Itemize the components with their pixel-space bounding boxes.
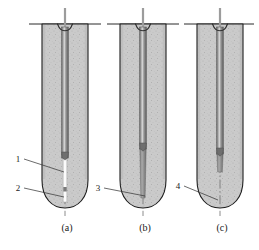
mandrel-tube-a [62, 27, 69, 158]
mandrel-tube-b [140, 27, 147, 149]
figure-canvas: (a) (b) [0, 0, 259, 250]
callout-1-label: 1 [16, 154, 21, 164]
grout-strip-a [63, 156, 67, 202]
grout-cone-b [140, 148, 146, 198]
grout-marker-a [63, 187, 66, 192]
callout-3-label: 3 [96, 183, 101, 193]
caption-c: (c) [216, 222, 227, 234]
pile-installation-figure: (a) (b) [0, 0, 259, 250]
caption-a: (a) [61, 222, 72, 234]
tube-stem-a [64, 8, 66, 25]
column-edge-shade-right-c [240, 25, 242, 179]
caption-b: (b) [139, 222, 151, 234]
column-edge-shade-a [43, 25, 45, 179]
tube-stem-c [219, 8, 221, 25]
callout-2-label: 2 [16, 183, 21, 193]
column-edge-shade-b [121, 25, 123, 179]
mandrel-tube-c [217, 27, 224, 154]
tube-stem-b [142, 8, 144, 25]
column-edge-shade-right-b [163, 25, 165, 179]
callout-4-label: 4 [176, 181, 181, 191]
column-edge-shade-c [198, 25, 200, 179]
column-edge-shade-right-a [85, 25, 87, 179]
